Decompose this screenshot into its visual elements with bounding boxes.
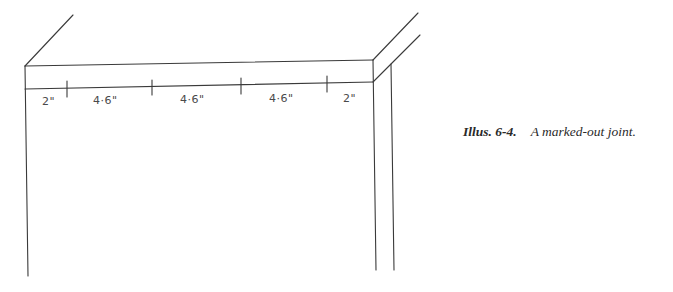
front-top-edge	[25, 60, 373, 66]
dimension-label: 4·6"	[180, 93, 205, 106]
dimension-label: 4·6"	[93, 94, 118, 107]
joint-line	[25, 82, 373, 89]
right-post-side-edge	[391, 64, 394, 270]
caption-label: Illus. 6-4.	[463, 124, 517, 139]
caption-text: A marked-out joint.	[531, 124, 636, 139]
right-top-back-edge	[373, 13, 418, 60]
figure-caption: Illus. 6-4.A marked-out joint.	[463, 124, 636, 140]
dimension-label: 2"	[42, 95, 55, 108]
left-post-edge	[25, 66, 28, 276]
dimension-label: 2"	[343, 92, 356, 105]
dimension-label: 4·6"	[269, 92, 294, 105]
right-bottom-back-edge	[373, 35, 420, 82]
joint-drawing: 2" 4·6" 4·6" 4·6" 2"	[0, 0, 673, 292]
left-back-edge	[25, 15, 73, 66]
right-post-front-edge	[373, 60, 376, 270]
